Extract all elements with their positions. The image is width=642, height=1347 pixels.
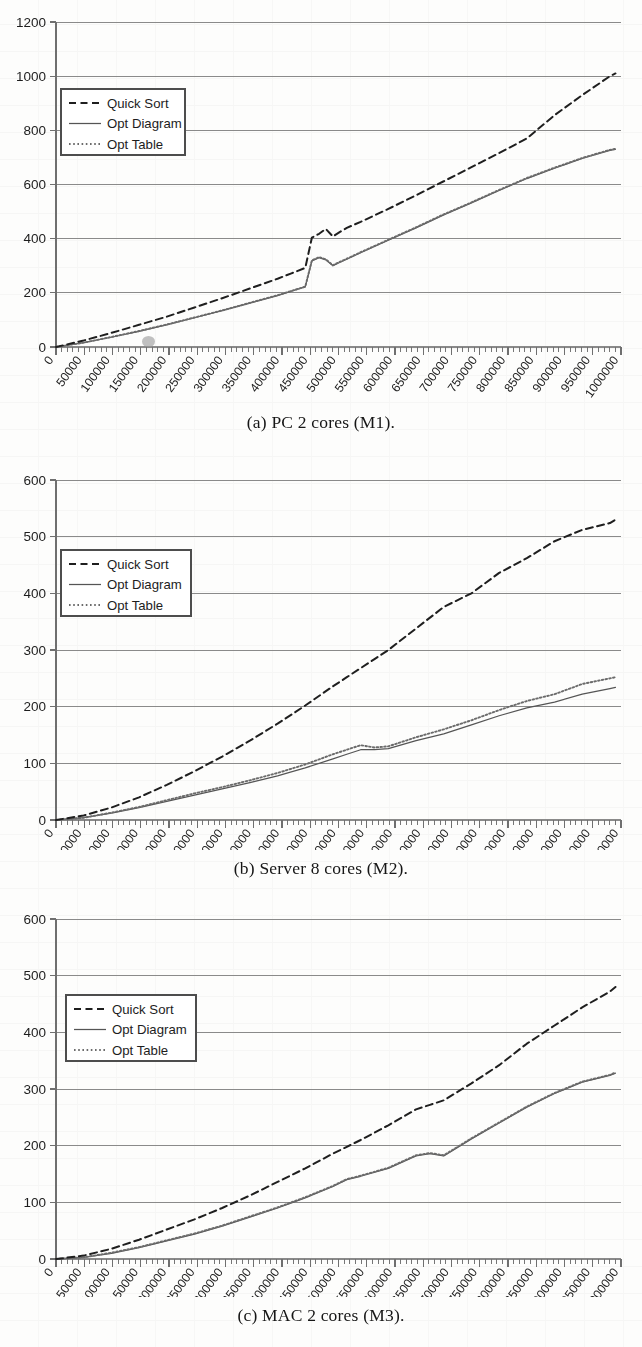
x-axis-tick-label: 900000: [530, 826, 565, 850]
x-axis-tick-label: 900000: [530, 1265, 565, 1297]
figure-c: 0100200300400500600050000100000150000200…: [0, 897, 642, 1347]
x-axis-tick-label: 200000: [134, 1265, 169, 1297]
x-axis-tick-label: 350000: [219, 1265, 254, 1297]
y-axis-tick-label: 300: [23, 1082, 46, 1097]
y-axis-tick-label: 0: [38, 1252, 46, 1267]
y-axis-tick-label: 200: [23, 285, 46, 300]
x-axis-tick-label: 0: [41, 1265, 56, 1279]
chart-b: 0100200300400500600050000100000150000200…: [0, 450, 642, 850]
series-line-opt-diagram: [56, 1073, 615, 1259]
y-axis-tick-label: 400: [23, 1025, 46, 1040]
figure-c-caption: (c) MAC 2 cores (M3).: [0, 1305, 642, 1326]
x-axis-tick-label: 350000: [219, 826, 254, 850]
x-axis-tick-label: 450000: [275, 1265, 310, 1297]
x-axis-tick-label: 400000: [247, 1265, 282, 1297]
x-axis-tick-label: 300000: [191, 826, 226, 850]
y-axis-tick-label: 1200: [16, 15, 46, 30]
x-axis-tick-label: 850000: [501, 1265, 536, 1297]
y-axis-tick-label: 600: [23, 473, 46, 488]
x-axis-tick-label: 450000: [275, 826, 310, 850]
y-axis-tick-label: 400: [23, 586, 46, 601]
x-axis-tick-label: 250000: [162, 1265, 197, 1297]
scanned-page: 0200400600800100012000500001000001500002…: [0, 0, 642, 1347]
x-axis-tick-label: 850000: [501, 826, 536, 850]
y-axis-tick-label: 600: [23, 177, 46, 192]
y-axis-tick-label: 0: [38, 813, 46, 828]
x-axis-tick-label: 600000: [360, 826, 395, 850]
legend-label-quick-sort: Quick Sort: [107, 96, 169, 111]
x-axis-tick-label: 100000: [78, 826, 113, 850]
scan-smudge-artifact: [142, 336, 155, 347]
x-axis-tick-label: 800000: [473, 826, 508, 850]
x-axis-tick-label: 250000: [162, 826, 197, 850]
legend-label-quick-sort: Quick Sort: [112, 1002, 174, 1017]
legend-label-opt-table: Opt Table: [107, 137, 163, 152]
figure-b-caption: (b) Server 8 cores (M2).: [0, 858, 642, 879]
x-axis-tick-label: 200000: [134, 826, 169, 850]
y-axis-tick-label: 500: [23, 968, 46, 983]
series-line-opt-diagram: [56, 149, 615, 347]
figure-a: 0200400600800100012000500001000001500002…: [0, 0, 642, 450]
x-axis-tick-label: 650000: [388, 826, 423, 850]
x-axis-tick-label: 500000: [304, 1265, 339, 1297]
legend-label-opt-diagram: Opt Diagram: [107, 116, 182, 131]
x-axis-tick-label: 650000: [388, 1265, 423, 1297]
legend-label-opt-diagram: Opt Diagram: [112, 1022, 187, 1037]
y-axis-tick-label: 800: [23, 123, 46, 138]
legend-label-opt-diagram: Opt Diagram: [107, 577, 182, 592]
x-axis-tick-label: 0: [41, 353, 56, 367]
x-axis-tick-label: 500000: [304, 826, 339, 850]
y-axis-tick-label: 200: [23, 699, 46, 714]
x-axis-tick-label: 550000: [332, 1265, 367, 1297]
x-axis-tick-label: 950000: [558, 826, 593, 850]
y-axis-tick-label: 600: [23, 912, 46, 927]
x-axis-tick-label: 100000: [78, 1265, 113, 1297]
y-axis-tick-label: 100: [23, 1195, 46, 1210]
y-axis-tick-label: 200: [23, 1138, 46, 1153]
chart-c: 0100200300400500600050000100000150000200…: [0, 897, 642, 1297]
x-axis-tick-label: 400000: [247, 826, 282, 850]
series-line-opt-table: [56, 677, 615, 820]
y-axis-tick-label: 100: [23, 756, 46, 771]
y-axis-tick-label: 1000: [16, 69, 46, 84]
legend-label-opt-table: Opt Table: [112, 1043, 168, 1058]
figure-b: 0100200300400500600050000100000150000200…: [0, 450, 642, 897]
x-axis-tick-label: 150000: [106, 826, 141, 850]
y-axis-tick-label: 500: [23, 529, 46, 544]
legend-label-opt-table: Opt Table: [107, 598, 163, 613]
chart-a: 0200400600800100012000500001000001500002…: [0, 0, 642, 405]
x-axis-tick-label: 600000: [360, 1265, 395, 1297]
x-axis-tick-label: 550000: [332, 826, 367, 850]
y-axis-tick-label: 400: [23, 231, 46, 246]
x-axis-tick-label: 150000: [106, 1265, 141, 1297]
y-axis-tick-label: 0: [38, 340, 46, 355]
x-axis-tick-label: 700000: [417, 826, 452, 850]
x-axis-tick-label: 50000: [53, 826, 84, 850]
y-axis-tick-label: 300: [23, 643, 46, 658]
x-axis-tick-label: 750000: [445, 1265, 480, 1297]
x-axis-tick-label: 800000: [473, 1265, 508, 1297]
figure-a-caption: (a) PC 2 cores (M1).: [0, 412, 642, 433]
x-axis-tick-label: 0: [41, 826, 56, 840]
x-axis-tick-label: 300000: [191, 1265, 226, 1297]
series-line-opt-table: [56, 1073, 615, 1259]
series-line-opt-table: [56, 149, 615, 347]
x-axis-tick-label: 50000: [53, 1265, 84, 1297]
x-axis-tick-label: 700000: [417, 1265, 452, 1297]
x-axis-tick-label: 950000: [558, 1265, 593, 1297]
legend-label-quick-sort: Quick Sort: [107, 557, 169, 572]
x-axis-tick-label: 750000: [445, 826, 480, 850]
